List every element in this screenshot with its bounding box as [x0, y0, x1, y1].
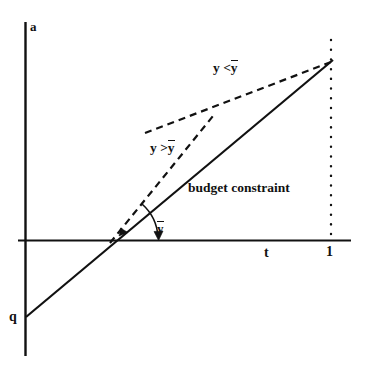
- label-y-greater-than-ybar-lead: y >: [150, 140, 168, 155]
- x-tick-label-t: t: [264, 246, 269, 260]
- angle-label-ybar-bar: y: [157, 222, 164, 235]
- budget-constraint-figure: a q t 1 budget constraint y <y y >y y: [0, 0, 367, 365]
- label-y-less-than-ybar-lead: y <: [213, 60, 231, 75]
- label-y-greater-than-ybar-bar: y: [168, 141, 175, 155]
- y-intercept-label-q: q: [9, 310, 17, 324]
- label-y-less-than-ybar-bar: y: [231, 61, 238, 75]
- budget-constraint-label: budget constraint: [188, 181, 290, 195]
- figure-canvas: [0, 0, 367, 365]
- x-tick-label-one: 1: [326, 245, 333, 259]
- label-y-less-than-ybar: y <y: [213, 61, 238, 75]
- y-axis-label: a: [30, 20, 37, 33]
- label-y-greater-than-ybar: y >y: [150, 141, 175, 155]
- dashed-line-y-less-than-ybar: [145, 62, 331, 133]
- angle-label-ybar: y: [157, 222, 164, 235]
